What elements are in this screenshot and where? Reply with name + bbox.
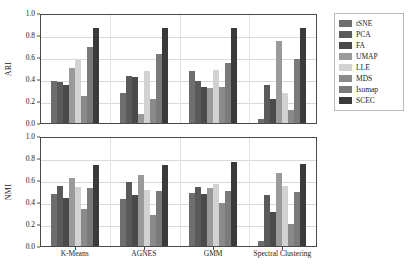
bar-group-gmm [179, 138, 248, 246]
legend-item-fa[interactable]: FA [339, 40, 399, 51]
bar-scec [162, 28, 168, 123]
y-tick-mark [37, 225, 40, 226]
bar-group-agnes [110, 15, 179, 123]
legend-label: Isomap [356, 86, 378, 94]
y-tick-mark [37, 58, 40, 59]
x-tick-mark [282, 247, 283, 250]
legend: tSNEPCAFAUMAPLLEMDSIsomapSCEC [334, 13, 404, 111]
x-tick-mark [75, 247, 76, 250]
bar-scec [231, 162, 237, 246]
legend-item-scec[interactable]: SCEC [339, 95, 399, 106]
legend-swatch-icon [339, 31, 352, 38]
y-tick-mark [37, 247, 40, 248]
bar-scec [300, 164, 306, 247]
legend-swatch-icon [339, 75, 352, 82]
y-tick-mark [37, 80, 40, 81]
x-axis-label-agnes: AGNES [109, 250, 178, 258]
legend-item-mds[interactable]: MDS [339, 73, 399, 84]
y-tick-mark [37, 36, 40, 37]
x-tick-mark [213, 247, 214, 250]
legend-label: PCA [356, 31, 371, 39]
bar-group-gmm [179, 15, 248, 123]
x-tick-mark [144, 247, 145, 250]
plot-area-nmi [40, 137, 317, 247]
bar-scec [231, 28, 237, 123]
legend-label: SCEC [356, 97, 375, 105]
legend-label: MDS [356, 75, 372, 83]
bar-group-k-means [41, 15, 110, 123]
legend-label: UMAP [356, 53, 378, 61]
bar-groups-nmi [41, 138, 316, 246]
x-axis-label-spectral-clustering: Spectral Clustering [248, 250, 317, 258]
bar-group-spectral-clustering [247, 138, 316, 246]
bar-scec [162, 165, 168, 246]
panel-ari: ARI 0.00.20.40.60.81.0 [40, 14, 317, 124]
legend-item-isomap[interactable]: Isomap [339, 84, 399, 95]
legend-item-tsne[interactable]: tSNE [339, 18, 399, 29]
y-axis-title-ari: ARI [4, 62, 13, 77]
bar-scec [93, 28, 99, 123]
legend-label: FA [356, 42, 365, 50]
legend-label: tSNE [356, 20, 372, 28]
bar-groups-ari [41, 15, 316, 123]
bar-group-agnes [110, 138, 179, 246]
legend-swatch-icon [339, 97, 352, 104]
legend-item-lle[interactable]: LLE [339, 62, 399, 73]
legend-swatch-icon [339, 86, 352, 93]
legend-swatch-icon [339, 53, 352, 60]
figure-root: ARI 0.00.20.40.60.81.0 NMI 0.00.20.40.60… [0, 0, 415, 271]
bar-group-spectral-clustering [247, 15, 316, 123]
legend-swatch-icon [339, 20, 352, 27]
y-tick-mark [37, 203, 40, 204]
y-tick-mark [37, 124, 40, 125]
bar-group-k-means [41, 138, 110, 246]
panel-nmi: NMI 0.00.20.40.60.81.0 [40, 137, 317, 247]
plot-area-ari [40, 14, 317, 124]
x-axis-label-k-means: K-Means [40, 250, 109, 258]
legend-swatch-icon [339, 42, 352, 49]
legend-swatch-icon [339, 64, 352, 71]
bar-scec [93, 165, 99, 246]
y-axis-title-nmi: NMI [4, 184, 13, 200]
x-axis-label-gmm: GMM [179, 250, 248, 258]
y-tick-mark [37, 181, 40, 182]
y-tick-mark [37, 137, 40, 138]
legend-label: LLE [356, 64, 370, 72]
y-tick-mark [37, 159, 40, 160]
x-axis-labels: K-MeansAGNESGMMSpectral Clustering [40, 250, 317, 258]
y-tick-mark [37, 14, 40, 15]
legend-item-umap[interactable]: UMAP [339, 51, 399, 62]
bar-scec [300, 28, 306, 123]
y-tick-mark [37, 102, 40, 103]
legend-item-pca[interactable]: PCA [339, 29, 399, 40]
